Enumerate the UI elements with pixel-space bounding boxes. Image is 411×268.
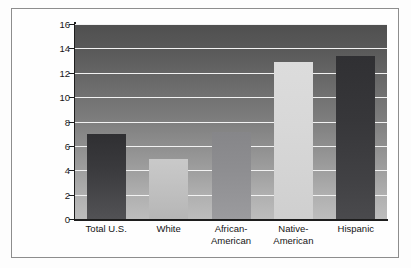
x-axis-tick-label-line: American	[200, 235, 262, 247]
x-axis-tick-label-line: American	[262, 235, 324, 247]
x-axis-tick-label-line: Hispanic	[325, 223, 387, 235]
x-axis-tick-label: Native-American	[262, 223, 324, 246]
y-axis-tick-label: 8	[48, 116, 70, 127]
y-axis-tick-mark	[69, 73, 75, 74]
y-axis-tick-label: 12	[48, 67, 70, 78]
x-axis-tick-label: Total U.S.	[75, 223, 137, 235]
bar-hispanic	[336, 56, 375, 219]
x-axis-tick-labels: Total U.S.WhiteAfrican-AmericanNative-Am…	[75, 223, 387, 263]
x-axis-line	[74, 219, 388, 221]
chart-figure: Percentage of 16- to 24-Year-Olds Withou…	[0, 0, 411, 268]
y-axis-tick-label: 4	[48, 165, 70, 176]
gridline	[75, 48, 387, 49]
x-axis-tick-label-line: Native-	[262, 223, 324, 235]
y-axis-tick-mark	[69, 146, 75, 147]
y-axis-tick-mark	[69, 97, 75, 98]
bar-white	[149, 159, 188, 219]
y-axis-tick-label: 16	[48, 19, 70, 30]
bar-african-american	[212, 132, 251, 219]
y-axis-tick-label: 14	[48, 43, 70, 54]
y-axis-tick-label: 2	[48, 189, 70, 200]
y-axis-tick-label: 6	[48, 140, 70, 151]
x-axis-tick-label: White	[137, 223, 199, 235]
y-axis-tick-mark	[69, 195, 75, 196]
y-axis-tick-mark	[69, 219, 75, 220]
y-axis-tick-mark	[69, 122, 75, 123]
y-axis-tick-mark	[69, 48, 75, 49]
x-axis-tick-label-line: Total U.S.	[75, 223, 137, 235]
x-axis-tick-label: Hispanic	[325, 223, 387, 235]
y-axis-tick-mark	[69, 24, 75, 25]
y-axis-tick-label: 10	[48, 92, 70, 103]
y-axis-tick-labels: 0246810121416	[44, 0, 70, 268]
x-axis-tick-label-line: African-	[200, 223, 262, 235]
bar-native-american	[274, 62, 313, 219]
x-axis-tick-label: African-American	[200, 223, 262, 246]
x-axis-tick-label-line: White	[137, 223, 199, 235]
gridline	[75, 24, 387, 25]
plot-area	[75, 24, 387, 219]
y-axis-tick-mark	[69, 170, 75, 171]
bar-total-u-s	[87, 134, 126, 219]
y-axis-tick-label: 0	[48, 214, 70, 225]
